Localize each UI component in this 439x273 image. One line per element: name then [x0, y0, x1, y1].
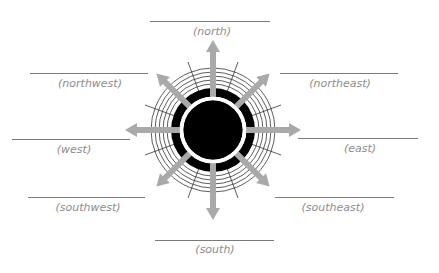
label-east: (east) [344, 142, 376, 155]
compass-rose-diagram: (north) (northwest) (northeast) (west) (… [0, 0, 439, 273]
label-southwest: (southwest) [55, 201, 120, 214]
label-southeast: (southeast) [302, 201, 365, 214]
label-west: (west) [57, 143, 91, 156]
label-northeast: (northeast) [309, 77, 371, 90]
label-south: (south) [195, 243, 234, 256]
blank-line-west [12, 139, 130, 140]
arrow-northwest-icon [151, 68, 194, 111]
blank-line-northeast [280, 73, 398, 74]
blank-line-south [155, 240, 274, 241]
arrow-southwest-icon [151, 148, 194, 191]
arrow-southeast-icon [231, 148, 274, 191]
blank-line-northwest [30, 73, 148, 74]
blank-line-north [150, 21, 270, 22]
label-northwest: (northwest) [58, 77, 122, 90]
blank-line-southwest [28, 197, 145, 198]
compass-rose-graphic [0, 0, 439, 273]
label-north: (north) [193, 25, 231, 38]
arrow-northeast-icon [231, 68, 274, 111]
blank-line-east [298, 138, 418, 139]
blank-line-southeast [275, 197, 394, 198]
